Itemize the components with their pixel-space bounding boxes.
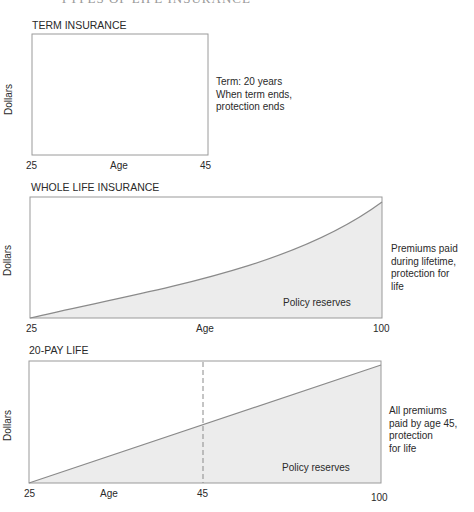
term-x-start: 25 [26, 160, 37, 171]
whole-life-x-start: 25 [26, 323, 37, 334]
twenty-pay-x-start: 25 [24, 488, 35, 499]
whole-life-y-label: Dollars [2, 245, 13, 276]
term-x-end: 45 [200, 160, 211, 171]
twenty-pay-area-label: Policy reserves [282, 462, 350, 473]
term-title: TERM INSURANCE [32, 19, 127, 31]
whole-life-area-label: Policy reserves [283, 297, 351, 308]
whole-life-x-label: Age [196, 323, 214, 334]
twenty-pay-x-mid: 45 [197, 488, 208, 499]
whole-life-x-end: 100 [373, 323, 390, 334]
term-y-label: Dollars [3, 84, 14, 115]
twenty-pay-title: 20-PAY LIFE [29, 344, 89, 356]
twenty-pay-x-end: 100 [371, 492, 388, 503]
whole-life-title: WHOLE LIFE INSURANCE [31, 181, 159, 193]
twenty-pay-note: All premiums paid by age 45, protection … [389, 405, 457, 455]
term-note: Term: 20 years When term ends, protectio… [216, 76, 292, 114]
twenty-pay-y-label: Dollars [2, 410, 13, 441]
twenty-pay-x-label: Age [100, 488, 118, 499]
term-chart-frame [32, 34, 208, 155]
whole-life-note: Premiums paid during lifetime, protectio… [391, 243, 458, 293]
term-x-label: Age [110, 160, 128, 171]
